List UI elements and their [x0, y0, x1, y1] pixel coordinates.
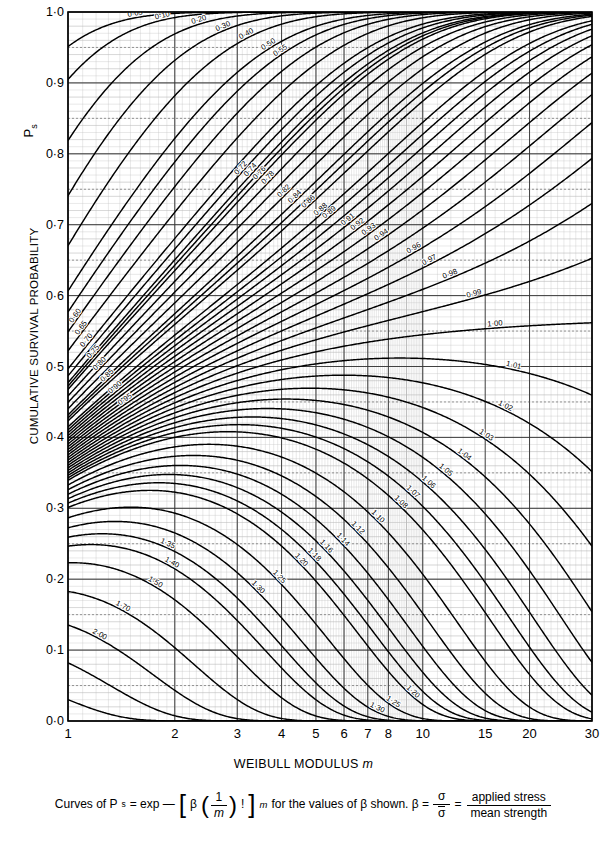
- y-tick-label: 0·4: [8, 430, 64, 444]
- frac-numerator: 1: [211, 791, 228, 806]
- curve-label: 1·05: [437, 461, 454, 478]
- x-tick-label: 15: [478, 726, 492, 741]
- y-tick-label: 1·0: [8, 5, 64, 19]
- x-title-italic: m: [362, 757, 373, 771]
- x-axis-title: WEIBULL MODULUS m: [0, 757, 607, 771]
- curve-label: 1·16: [318, 537, 335, 554]
- x-tick-label: 20: [522, 726, 536, 741]
- curve-label: 0·90: [106, 379, 123, 396]
- caption-equals: =: [454, 798, 461, 812]
- paren-open: (: [201, 795, 209, 815]
- caption-eq1: = exp —: [130, 798, 175, 812]
- exponent-m: m: [260, 800, 268, 811]
- y-tick-label: 0·3: [8, 501, 64, 515]
- words-denominator: mean strength: [465, 806, 552, 820]
- bracket-close: ]: [248, 793, 255, 816]
- x-tick-label: 10: [416, 726, 430, 741]
- y-tick-label: 0·6: [8, 289, 64, 303]
- chart-plot-area: 0·050·050·100·100·200·200·300·300·400·40…: [0, 0, 607, 841]
- x-tick-label: 5: [312, 726, 319, 741]
- curve-label: 0·10: [154, 9, 171, 21]
- y-tick-label: 0·8: [8, 147, 64, 161]
- y-axis-ticks: 0·00·10·20·30·40·50·60·70·80·91·0: [0, 0, 64, 841]
- x-tick-label: 6: [340, 726, 347, 741]
- frac-denominator: m: [209, 806, 229, 820]
- x-tick-label: 8: [385, 726, 392, 741]
- ratio-numerator: σ: [433, 790, 450, 805]
- factorial-sign: !: [241, 798, 244, 812]
- curve-label: 1·12: [350, 519, 367, 536]
- caption-lead: Curves of P: [55, 798, 118, 812]
- x-tick-label: 7: [364, 726, 371, 741]
- y-tick-label: 0·5: [8, 360, 64, 374]
- curve-label: 0·85: [98, 367, 115, 384]
- paren-close: ): [229, 795, 237, 815]
- caption-formula: Curves of Ps = exp — [ β ( 1 m ) ! ]m fo…: [0, 790, 607, 820]
- stress-words-fraction: applied stress mean strength: [465, 791, 552, 820]
- curve-label: 1·08: [393, 493, 410, 510]
- curve-label: 1·07: [405, 483, 422, 500]
- y-tick-label: 0·1: [8, 643, 64, 657]
- curve-label: 1·30: [250, 578, 267, 595]
- x-title-main: WEIBULL MODULUS: [234, 757, 359, 771]
- x-tick-label: 1: [64, 726, 71, 741]
- words-numerator: applied stress: [467, 791, 551, 806]
- x-tick-label: 2: [171, 726, 178, 741]
- curve-label: 1·00: [487, 318, 503, 328]
- y-tick-label: 0·9: [8, 76, 64, 90]
- stress-ratio-fraction: σ σ: [433, 790, 450, 820]
- ratio-denominator: σ: [433, 805, 450, 820]
- y-tick-label: 0·7: [8, 218, 64, 232]
- x-tick-label: 30: [585, 726, 599, 741]
- caption-beta: β: [190, 798, 197, 812]
- x-tick-label: 3: [234, 726, 241, 741]
- y-tick-label: 0·2: [8, 572, 64, 586]
- caption-lead-sub: s: [122, 800, 126, 810]
- y-tick-label: 0·0: [8, 714, 64, 728]
- curve-label: 0·99: [465, 287, 482, 300]
- weibull-nomograph: 0·050·050·100·100·200·200·300·300·400·40…: [0, 0, 607, 841]
- x-tick-label: 4: [278, 726, 285, 741]
- caption-mid: for the values of β shown. β =: [271, 798, 429, 812]
- inverse-m-fraction: ( 1 m ): [201, 791, 237, 820]
- bracket-open: [: [179, 793, 186, 816]
